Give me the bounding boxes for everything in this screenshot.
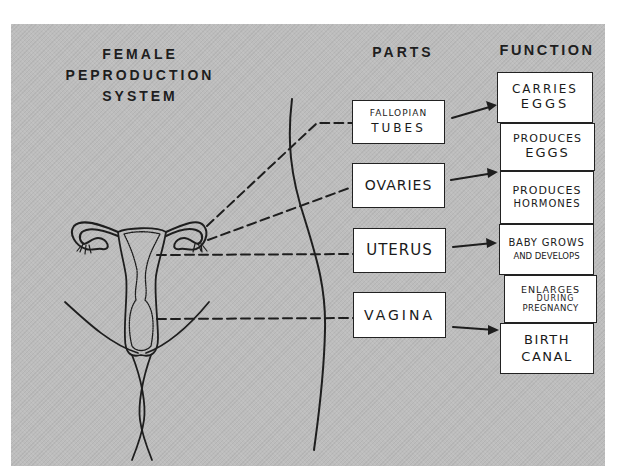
function-label-line-1: Carries bbox=[512, 83, 578, 97]
function-label-line-3: Pregnancy bbox=[522, 304, 578, 313]
function-label-line-2: Canal bbox=[521, 350, 572, 365]
function-label-line-1: Birth bbox=[524, 333, 570, 348]
function-label-line-1: Produces bbox=[513, 133, 582, 146]
uterus-cavity bbox=[124, 232, 160, 351]
arrowhead-2 bbox=[487, 168, 498, 178]
part-label: Vagina bbox=[364, 307, 435, 323]
part-box-ovaries: Ovaries bbox=[352, 163, 445, 208]
part-box-fallopian-tubes: Fallopian Tubes bbox=[352, 100, 445, 144]
function-box-produces-eggs: Produces Eggs bbox=[500, 123, 595, 171]
function-box-enlarges: Enlarges During Pregnancy bbox=[504, 275, 597, 323]
right-fimbriae bbox=[193, 243, 207, 252]
leader-vagina bbox=[157, 318, 353, 319]
left-leg-line bbox=[132, 355, 145, 460]
function-box-baby-grows: Baby Grows and Develops bbox=[499, 224, 594, 275]
arrowhead-4 bbox=[488, 325, 499, 335]
left-fallopian-tube bbox=[72, 222, 118, 249]
function-box-produces-hormones: Produces Hormones bbox=[500, 171, 594, 224]
function-label-line-1: Baby Grows bbox=[508, 237, 584, 249]
function-box-carries-eggs: Carries Eggs bbox=[497, 72, 593, 123]
leader-ovaries bbox=[208, 187, 352, 240]
part-label: Uterus bbox=[366, 242, 433, 259]
leader-fallopian-tubes bbox=[207, 123, 352, 226]
right-hip-line bbox=[146, 302, 209, 353]
part-box-vagina: Vagina bbox=[353, 292, 446, 338]
part-box-uterus: Uterus bbox=[353, 228, 446, 273]
function-box-birth-canal: Birth Canal bbox=[500, 323, 594, 374]
right-leg-line bbox=[139, 355, 152, 460]
uterus-outer bbox=[118, 228, 166, 356]
part-label-line-2: Tubes bbox=[371, 122, 426, 136]
arrow-fallopian-to-carries bbox=[452, 106, 493, 118]
function-label-line-2: and Develops bbox=[513, 252, 579, 262]
function-label-line-2: Eggs bbox=[521, 97, 570, 112]
function-label-line-2: Hormones bbox=[514, 198, 581, 210]
part-label: Ovaries bbox=[365, 177, 433, 193]
arrowhead-1 bbox=[486, 101, 497, 111]
function-label-line-1: Produces bbox=[512, 185, 581, 198]
right-fallopian-tube bbox=[166, 222, 206, 249]
function-label-line-2: Eggs bbox=[525, 146, 570, 161]
arrowhead-3 bbox=[486, 238, 497, 248]
body-outline bbox=[290, 99, 325, 450]
left-hip-line bbox=[65, 302, 138, 353]
part-label-line-1: Fallopian bbox=[370, 108, 427, 118]
arrow-ovaries-to-produces bbox=[451, 173, 494, 180]
leader-uterus bbox=[157, 254, 353, 255]
